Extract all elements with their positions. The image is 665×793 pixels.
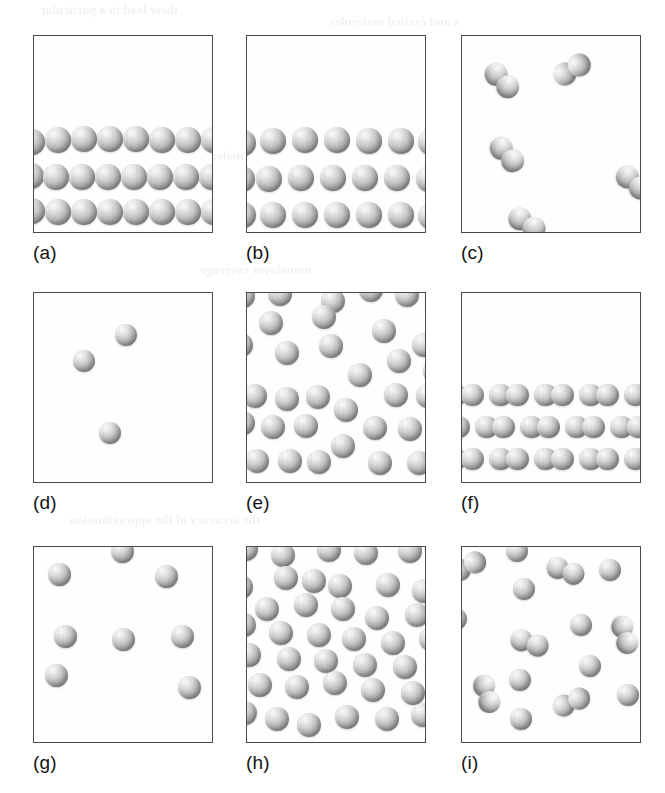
particle-sphere [334,398,358,422]
particle-sphere [461,608,467,630]
particle-dimer [565,416,604,438]
simulation-cell-b [246,35,426,233]
particle-sphere [175,199,201,225]
particle-dimer [579,384,618,406]
particle-sphere [115,324,137,346]
panel-label-a: (a) [33,243,57,262]
particle-sphere [201,127,213,153]
particle-sphere [412,579,426,603]
particle-sphere [48,563,71,586]
particle-sphere [33,129,45,155]
particle-sphere [381,631,405,655]
simulation-cell-g [33,546,213,743]
particle-sphere [363,416,387,440]
panel-label-e: (e) [246,493,270,512]
particle-sphere [407,451,426,475]
particle-sphere [149,199,175,225]
particle-sphere [506,448,528,470]
simulation-cell-f [461,292,641,483]
particle-sphere [401,681,425,705]
particle-sphere [331,597,355,621]
particle-sphere [510,708,532,730]
panel-label-d: (d) [33,493,57,512]
particle-sphere [425,292,426,315]
particle-dimer [489,448,528,470]
particle-dimer [549,49,595,90]
particle-sphere [260,202,286,228]
particle-sphere [342,627,366,651]
panel-h: (h) [246,546,426,793]
particle-sphere [33,163,44,189]
particle-sphere [69,164,95,190]
panel-label-h: (h) [246,753,270,772]
particle-sphere [461,416,470,438]
particle-sphere [71,126,97,152]
particle-sphere [359,292,383,302]
particle-sphere [405,603,426,627]
particle-sphere [537,416,559,438]
particle-sphere [419,627,426,651]
particle-dimer [610,416,641,438]
particle-sphere [71,199,97,225]
particle-sphere [393,655,417,679]
particle-dimer [504,202,550,233]
particle-dimer [624,384,641,406]
panel-label-f: (f) [461,493,480,512]
particle-sphere [492,416,514,438]
particle-sphere [294,593,318,617]
particle-sphere [348,363,372,387]
particle-sphere [248,673,272,697]
particle-sphere [121,164,147,190]
particle-sphere [292,202,318,228]
particle-dimer [508,626,552,659]
particle-sphere [246,701,257,725]
particle-dimer [549,684,594,720]
particle-sphere [319,334,343,358]
particle-sphere [320,165,346,191]
particle-sphere [288,165,314,191]
simulation-cell-e [246,292,426,483]
particle-sphere [324,202,350,228]
particle-sphere [312,305,336,329]
particle-sphere [297,713,321,737]
particle-sphere [171,625,194,648]
particle-dimer [544,554,589,589]
particle-sphere [147,164,173,190]
particle-dimer [461,547,491,584]
particle-sphere [275,387,299,411]
particle-sphere [246,202,256,228]
panel-label-c: (c) [461,243,484,262]
particle-sphere [506,546,528,562]
particle-dimer [520,416,559,438]
panel-label-i: (i) [461,753,478,772]
simulation-cell-h [246,546,426,743]
particle-sphere [246,292,255,308]
particle-sphere [418,203,426,229]
particle-sphere [307,450,331,474]
particle-dimer [579,448,618,470]
panel-g: (g) [33,546,213,793]
panel-c: (c) [461,35,641,293]
particle-sphere [292,127,318,153]
particle-sphere [306,385,330,409]
particle-sphere [246,411,255,435]
particle-sphere [596,448,618,470]
particle-sphere [201,199,213,225]
particle-sphere [372,319,396,343]
particle-sphere [328,574,352,598]
particle-sphere [45,664,68,687]
particle-sphere [259,311,283,335]
particle-sphere [307,623,331,647]
panel-d: (d) [33,292,213,543]
particle-sphere [123,126,149,152]
particle-sphere [45,199,71,225]
particle-sphere [353,653,377,677]
particle-sphere [173,164,199,190]
particle-dimer [485,131,529,176]
particle-sphere [461,448,483,470]
particle-sphere [388,128,414,154]
simulation-snapshot-grid: (a)(b)(c)(d)(e)(f)(g)(h)(i) [0,0,665,793]
particle-sphere [323,671,347,695]
particle-sphere [274,566,298,590]
particle-dimer [611,160,641,203]
